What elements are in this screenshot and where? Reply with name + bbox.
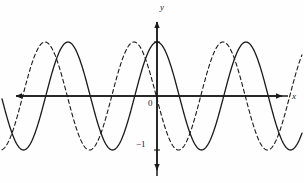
- plot-canvas: [0, 0, 304, 183]
- y-tick-label-negative-one: −1: [136, 140, 146, 149]
- y-axis-label: y: [160, 3, 164, 12]
- origin-label: 0: [148, 99, 153, 108]
- x-axis-label: x: [292, 92, 296, 101]
- trig-graph-figure: y x 0 −1: [0, 0, 304, 183]
